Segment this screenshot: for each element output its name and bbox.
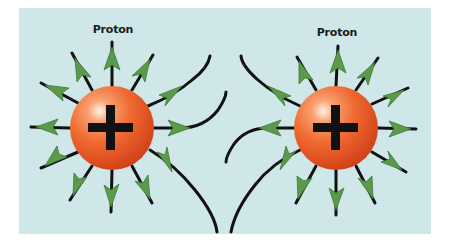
proton-right: [226, 46, 416, 232]
proton-left: [31, 42, 226, 232]
proton-label-right: Proton: [317, 26, 358, 39]
proton-label-left: Proton: [93, 23, 134, 36]
proton-repulsion-diagram: [0, 0, 449, 246]
